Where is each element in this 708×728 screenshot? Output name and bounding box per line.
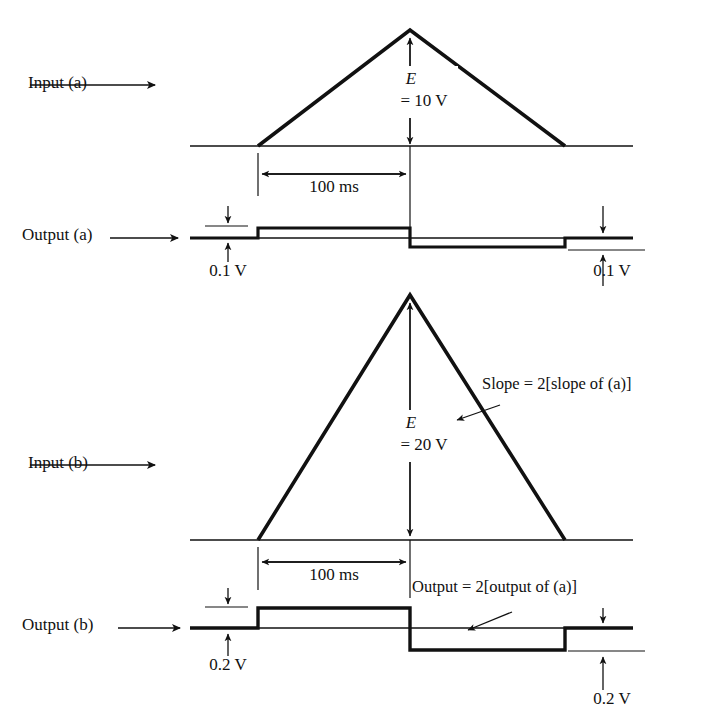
input-b-panel bbox=[30, 295, 633, 540]
input-a-panel bbox=[30, 30, 633, 146]
amplitude-value-a: = 10 V bbox=[400, 92, 447, 110]
amplitude-left-a-label: 0.1 V bbox=[209, 262, 246, 280]
input-b-label: Input (b) bbox=[28, 454, 88, 472]
differentiator-waveform-figure: Input (a) E = 10 V 100 ms Output (a) 0.1… bbox=[0, 0, 708, 728]
slope-note-label: Slope = 2[slope of (a)] bbox=[482, 375, 632, 392]
amplitude-left-b-label: 0.2 V bbox=[209, 656, 246, 674]
slope-leader-arrow bbox=[457, 405, 500, 420]
output-a-square-waveform bbox=[190, 228, 633, 247]
amplitude-right-b-label: 0.2 V bbox=[593, 690, 630, 708]
output-b-square-waveform bbox=[190, 608, 633, 650]
output-a-label: Output (a) bbox=[22, 226, 92, 244]
amplitude-symbol-b: E bbox=[406, 414, 416, 432]
output-b-label: Output (b) bbox=[22, 616, 93, 634]
waveform-diagram bbox=[0, 0, 708, 728]
output-a-panel bbox=[110, 206, 645, 286]
time-dimension-b-label: 100 ms bbox=[309, 566, 359, 584]
amplitude-right-a-label: 0.1 V bbox=[593, 262, 630, 280]
output-note-label: Output = 2[output of (a)] bbox=[412, 578, 577, 595]
amplitude-symbol-a: E bbox=[406, 70, 416, 88]
time-dimension-a-label: 100 ms bbox=[309, 178, 359, 196]
output-b-panel bbox=[118, 588, 645, 690]
input-a-label: Input (a) bbox=[28, 74, 87, 92]
amplitude-value-b: = 20 V bbox=[400, 436, 447, 454]
